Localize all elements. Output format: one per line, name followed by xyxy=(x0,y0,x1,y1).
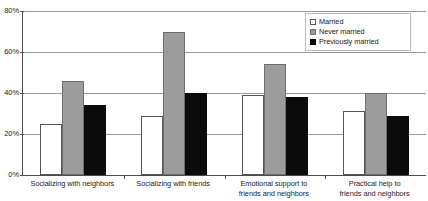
x-category-label-line: Socializing with friends xyxy=(123,179,224,189)
x-category-label: Socializing with neighbors xyxy=(22,179,123,189)
legend-label: Married xyxy=(319,18,343,25)
legend: MarriedNever marriedPreviously married xyxy=(305,13,411,51)
legend-label: Previously married xyxy=(319,38,379,45)
bar-married xyxy=(40,124,62,175)
legend-label: Never married xyxy=(319,28,365,35)
legend-swatch-icon xyxy=(310,19,316,25)
bar-never-married xyxy=(163,32,185,176)
y-tick-label: 40% xyxy=(0,89,19,97)
legend-swatch-icon xyxy=(310,39,316,45)
bar-previously-married xyxy=(185,93,207,175)
x-category-label-line: friends and neighbors xyxy=(324,189,425,199)
bar-chart: 80%60%40%20%0% Socializing with neighbor… xyxy=(0,0,428,201)
bar-previously-married xyxy=(286,97,308,175)
bar-never-married xyxy=(62,81,84,175)
x-axis: Socializing with neighborsSocializing wi… xyxy=(22,179,425,201)
bar-group xyxy=(124,11,225,175)
bar-married xyxy=(141,116,163,175)
bar-previously-married xyxy=(84,105,106,175)
y-tick-mark xyxy=(20,175,24,176)
bar-group xyxy=(23,11,124,175)
bar-married xyxy=(242,95,264,175)
legend-item-never[interactable]: Never married xyxy=(310,27,408,37)
legend-swatch-icon xyxy=(310,29,316,35)
y-tick-label: 20% xyxy=(0,130,19,138)
x-category-label: Emotional support tofriends and neighbor… xyxy=(224,179,325,198)
x-category-label-line: friends and neighbors xyxy=(224,189,325,199)
bar-previously-married xyxy=(387,116,409,175)
y-axis: 80%60%40%20%0% xyxy=(0,0,19,201)
legend-item-prev[interactable]: Previously married xyxy=(310,37,408,47)
y-tick-label: 60% xyxy=(0,48,19,56)
y-tick-label: 0% xyxy=(0,171,19,179)
x-category-label-line: Practical help to xyxy=(324,179,425,189)
x-category-label: Socializing with friends xyxy=(123,179,224,189)
y-tick-label: 80% xyxy=(0,7,19,15)
x-category-label-line: Emotional support to xyxy=(224,179,325,189)
x-category-label: Practical help tofriends and neighbors xyxy=(324,179,425,198)
bar-never-married xyxy=(264,64,286,175)
bar-never-married xyxy=(365,93,387,175)
bar-married xyxy=(343,111,365,175)
legend-item-married[interactable]: Married xyxy=(310,17,408,27)
x-category-label-line: Socializing with neighbors xyxy=(22,179,123,189)
